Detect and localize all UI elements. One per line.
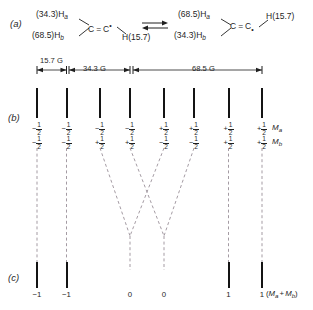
right-double-bond: = [236, 21, 245, 31]
scale-bar-34-3 [69, 66, 130, 74]
scale-bars [0, 60, 313, 82]
panel-c-label-2: −1 [62, 290, 71, 299]
right-structure-right-h: H(15.7) [266, 12, 294, 21]
row-label-Mb-sub: b [279, 140, 282, 147]
panel-b-line-8 [261, 88, 263, 118]
panel-b-line-7 [228, 88, 230, 118]
panel-c-label-5: 1 [226, 290, 230, 299]
collapse-connector-lines [0, 148, 313, 270]
panel-label-b: (b) [8, 112, 20, 123]
panel-c-sum-label: (Ma+Mb) [266, 289, 298, 299]
panel-b-line-4 [129, 88, 131, 118]
connector-converge-4 [164, 148, 194, 236]
esr-hyperfine-figure: (a) (34.3)Ha (68.5)Hb C=C• H(15.7) (68.5… [0, 0, 313, 310]
panel-c-line-5 [228, 262, 230, 288]
panel-c-line-1 [36, 262, 38, 288]
panel-b-line-1 [36, 88, 38, 118]
row-label-Mb: Mb [272, 137, 282, 147]
panel-b-line-2 [66, 88, 68, 118]
panel-b-line-3 [99, 88, 101, 118]
right-structure-core: C=C• [230, 22, 254, 33]
row-label-Ma-letter: M [272, 123, 279, 132]
panel-label-c: (c) [8, 272, 19, 283]
row-label-Ma-sub: a [279, 126, 282, 133]
sum-paren-close: ) [295, 289, 298, 298]
panel-c-line-6 [261, 262, 263, 288]
panel-c-label-4: 0 [162, 290, 166, 299]
panel-c-label-1: −1 [33, 290, 42, 299]
row-label-Ma: Ma [272, 123, 282, 133]
right-structure-bonds [0, 0, 313, 60]
panel-b-line-6 [193, 88, 195, 118]
panel-b-line-5 [163, 88, 165, 118]
right-radical-dot-icon: • [251, 26, 253, 33]
panel-c-label-3: 0 [128, 290, 132, 299]
scale-bar-15-7 [37, 66, 67, 74]
row-label-Mb-letter: M [272, 137, 279, 146]
panel-c-label-6: 1 [260, 290, 264, 299]
connector-converge-1 [100, 148, 130, 236]
panel-c-line-2 [66, 262, 68, 288]
scale-bar-68-5 [133, 66, 262, 74]
